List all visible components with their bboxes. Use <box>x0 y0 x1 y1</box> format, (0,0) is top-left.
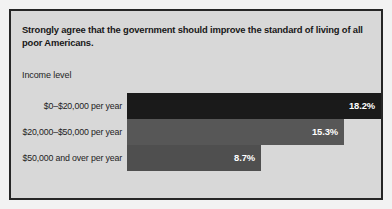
chart-panel: Strongly agree that the government shoul… <box>9 9 383 200</box>
bar-1: 15.3% <box>127 119 344 145</box>
bar-value-label: 18.2% <box>349 93 375 119</box>
bar-category-label: $0–$20,000 per year <box>11 93 122 119</box>
bar-value-label: 8.7% <box>234 145 255 171</box>
bar-0: 18.2% <box>127 93 381 119</box>
bar-chart-plot: $0–$20,000 per year 18.2% $20,000–$50,00… <box>11 93 381 175</box>
chart-title: Strongly agree that the government shoul… <box>22 24 370 49</box>
bar-row: $50,000 and over per year 8.7% <box>11 145 381 171</box>
bar-2: 8.7% <box>127 145 261 171</box>
axis-group-label: Income level <box>22 70 71 80</box>
bar-value-label: 15.3% <box>312 119 338 145</box>
figure-container: Strongly agree that the government shoul… <box>0 0 392 209</box>
bar-row: $20,000–$50,000 per year 15.3% <box>11 119 381 145</box>
chart-panel-inner: Strongly agree that the government shoul… <box>11 11 381 198</box>
bar-category-label: $20,000–$50,000 per year <box>11 119 122 145</box>
bar-category-label: $50,000 and over per year <box>11 145 122 171</box>
bar-row: $0–$20,000 per year 18.2% <box>11 93 381 119</box>
